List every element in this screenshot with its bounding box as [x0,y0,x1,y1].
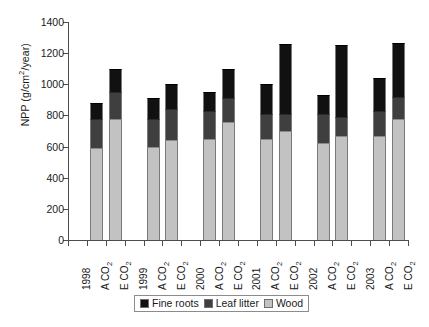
bar-segment-fine-roots [373,78,386,111]
bar-segment-wood [222,122,235,240]
x-tick-label: A CO2 [270,262,284,290]
x-tick-label: E CO2 [346,261,360,290]
legend-item-label: Leaf litter [216,297,259,309]
x-tick-label: E CO2 [289,261,303,290]
bar-segment-leaf-litter [279,114,292,131]
x-tick-label: A CO2 [327,262,341,290]
legend-item: Wood [264,297,303,309]
bar-segment-wood [335,136,348,240]
bar-segment-fine-roots [260,84,273,114]
x-tick-label: A CO2 [214,262,228,290]
bar-segment-leaf-litter [203,111,216,139]
y-tick-label: 400 [46,172,64,184]
x-tick-label: E CO2 [403,261,417,290]
x-tick-label: E CO2 [176,261,190,290]
bar-segment-fine-roots [165,84,178,109]
bar-segment-leaf-litter [317,114,330,144]
bar-stack [90,103,103,240]
bar-segment-wood [317,143,330,240]
bar-stack [335,45,348,240]
bar-segment-leaf-litter [222,98,235,122]
x-tick-label: E CO2 [119,261,133,290]
bar-segment-fine-roots [279,44,292,114]
y-tick-label: 0 [58,234,64,246]
x-tick-label: A CO2 [384,262,398,290]
y-axis-title-text: NPP (g/cm [19,75,31,126]
y-axis-line [68,22,69,241]
bar-stack [147,98,160,240]
y-axis-title-tail: /year) [19,43,31,70]
square-swatch-light-gray [264,299,273,308]
bar-stack [165,84,178,240]
bar-segment-wood [90,148,103,240]
bar-segment-fine-roots [392,43,405,97]
legend-item-label: Fine roots [152,297,199,309]
square-swatch-black [140,299,149,308]
y-tick-label: 800 [46,109,64,121]
bar-stack [279,44,292,240]
legend-item: Leaf litter [204,297,259,309]
y-tick-label: 1200 [41,47,64,59]
bar-segment-wood [373,136,386,240]
x-tick-label: 2000 [195,268,206,290]
bar-segment-leaf-litter [165,109,178,140]
bar-stack [260,84,273,240]
chart-legend: Fine rootsLeaf litterWood [134,295,309,312]
bar-segment-leaf-litter [373,111,386,136]
y-axis-title-exponent: 2 [17,71,26,75]
x-tick-label: 2001 [251,268,262,290]
x-tick-label: E CO2 [233,261,247,290]
bar-segment-wood [203,139,216,240]
x-tick-label: A CO2 [157,262,171,290]
bar-stack [109,69,122,240]
bar-segment-wood [109,119,122,240]
bar-segment-leaf-litter [335,117,348,136]
bar-segment-leaf-litter [260,114,273,139]
bar-segment-wood [165,140,178,240]
bar-segment-fine-roots [222,69,235,99]
bar-segment-fine-roots [90,103,103,119]
bar-stack [222,69,235,240]
bar-segment-fine-roots [203,92,216,111]
bar-segment-fine-roots [317,95,330,114]
bar-segment-wood [279,131,292,240]
x-tick-label: A CO2 [100,262,114,290]
bar-segment-leaf-litter [392,97,405,119]
bar-segment-leaf-litter [109,92,122,118]
y-axis-title: NPP (g/cm2/year) [17,25,31,145]
y-tick-label: 600 [46,141,64,153]
y-tick-label: 200 [46,203,64,215]
x-axis-labels: 1998A CO2E CO21999A CO2E CO22000A CO2E C… [68,246,413,294]
legend-item-label: Wood [276,297,303,309]
bar-stack [373,78,386,240]
bar-stack [317,95,330,240]
bar-segment-leaf-litter [90,119,103,149]
x-tick-label: 2002 [308,268,319,290]
x-tick-label: 1998 [81,268,92,290]
bar-segment-fine-roots [147,98,160,119]
chart-figure: NPP (g/cm2/year) 02004006008001000120014… [0,0,429,327]
bar-segment-fine-roots [335,45,348,117]
bar-segment-wood [147,147,160,240]
legend-item: Fine roots [140,297,199,309]
bar-stack [203,92,216,240]
y-tick-label: 1400 [41,16,64,28]
bar-stack [392,43,405,240]
x-tick-label: 2003 [365,268,376,290]
square-swatch-dark-gray [204,299,213,308]
plot-area: 0200400600800100012001400 [68,22,408,240]
bar-segment-wood [260,139,273,240]
y-tick-label: 1000 [41,78,64,90]
bar-segment-wood [392,119,405,240]
bar-segment-leaf-litter [147,119,160,147]
bar-segment-fine-roots [109,69,122,92]
x-tick-label: 1999 [138,268,149,290]
